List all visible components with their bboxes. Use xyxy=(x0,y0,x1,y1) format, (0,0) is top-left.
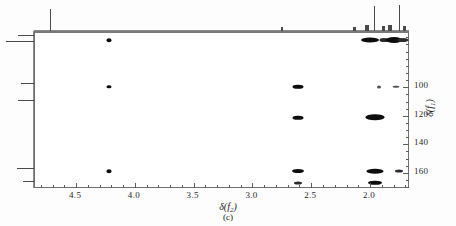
x-axis-minor-tick xyxy=(41,185,42,188)
x-axis-minor-tick xyxy=(88,185,89,188)
f2-projection-peak xyxy=(374,6,375,31)
y-axis-tick-label: 160 xyxy=(414,166,428,176)
y-axis-paren-open: ( xyxy=(424,109,435,112)
x-axis-tick-label: 4.0 xyxy=(128,190,140,200)
cross-peak xyxy=(292,169,304,173)
x-axis-minor-tick xyxy=(288,185,289,188)
cross-peak xyxy=(107,38,112,42)
x-axis-major-tick xyxy=(135,183,136,188)
x-axis-tick-label: 3.5 xyxy=(187,190,199,200)
cross-peak xyxy=(293,116,304,121)
y-axis-minor-tick xyxy=(406,187,409,188)
x-axis-tick-label: 2.0 xyxy=(363,190,375,200)
y-axis-f-symbol: f xyxy=(424,106,435,109)
x-axis-minor-tick xyxy=(53,185,54,188)
x-axis-minor-tick xyxy=(276,185,277,188)
cross-peak xyxy=(365,114,384,120)
y-axis-minor-tick xyxy=(406,130,409,131)
nmr-2d-spectrum-figure: 4.54.03.53.02.52.0 100120140160 δ(f2) δ(… xyxy=(0,0,456,226)
x-axis-minor-tick xyxy=(111,185,112,188)
x-axis-minor-tick xyxy=(323,185,324,188)
y-axis-minor-tick xyxy=(406,52,409,53)
y-axis-minor-tick xyxy=(406,109,409,110)
x-axis-tick-label: 2.5 xyxy=(304,190,316,200)
x-axis-minor-tick xyxy=(170,185,171,188)
y-axis-minor-tick xyxy=(406,66,409,67)
x-axis-major-tick xyxy=(252,183,253,188)
cross-peak xyxy=(293,84,304,89)
x-axis-major-tick xyxy=(370,183,371,188)
y-axis-minor-tick xyxy=(406,151,409,152)
spectrum-plot-area xyxy=(34,31,409,188)
x-axis-minor-tick xyxy=(100,185,101,188)
y-axis-minor-tick xyxy=(406,180,409,181)
x-axis-minor-tick xyxy=(64,185,65,188)
x-axis-minor-tick xyxy=(147,185,148,188)
f2-projection-peak xyxy=(399,5,400,31)
y-axis-tick-label: 100 xyxy=(414,80,428,90)
y-axis-minor-tick xyxy=(406,73,409,74)
y-axis-major-tick xyxy=(403,173,409,174)
y-axis-subscript: 1 xyxy=(429,103,437,107)
y-axis-tick-label: 140 xyxy=(414,137,428,147)
x-axis-major-tick xyxy=(311,183,312,188)
cross-peak xyxy=(366,169,383,174)
x-axis-minor-tick xyxy=(347,185,348,188)
y-axis-minor-tick xyxy=(406,137,409,138)
x-axis-major-tick xyxy=(194,183,195,188)
f1-projection-peak xyxy=(18,35,34,36)
f2-projection-trace xyxy=(34,0,409,31)
cross-peak xyxy=(377,85,381,88)
f1-projection-peak xyxy=(21,83,34,84)
y-axis-major-tick xyxy=(403,116,409,117)
f1-projection-peak xyxy=(18,100,34,101)
y-axis-minor-tick xyxy=(406,44,409,45)
cross-peak xyxy=(107,85,112,89)
x-axis-minor-tick xyxy=(158,185,159,188)
cross-peak xyxy=(361,38,379,43)
x-axis-minor-tick xyxy=(229,185,230,188)
cross-peak xyxy=(392,85,399,88)
cross-peak xyxy=(294,181,302,184)
x-axis-minor-tick xyxy=(205,185,206,188)
y-axis-delta-symbol: δ xyxy=(424,112,435,117)
x-axis-minor-tick xyxy=(241,185,242,188)
panel-label: (c) xyxy=(223,212,233,222)
f1-projection-trace xyxy=(0,31,34,188)
x-axis-tick-label: 4.5 xyxy=(69,190,81,200)
f2-projection-peak xyxy=(50,9,51,31)
x-axis-minor-tick xyxy=(123,185,124,188)
x-axis-minor-tick xyxy=(358,185,359,188)
x-axis-minor-tick xyxy=(382,185,383,188)
y-axis-title: δ(f1) xyxy=(424,99,437,117)
x-axis-minor-tick xyxy=(217,185,218,188)
x-axis-paren-close: ) xyxy=(233,201,236,212)
f1-projection-peak xyxy=(17,168,34,169)
x-axis-minor-tick xyxy=(264,185,265,188)
y-axis-minor-tick xyxy=(406,123,409,124)
f1-projection-peak xyxy=(6,41,34,42)
x-axis-minor-tick xyxy=(335,185,336,188)
y-axis-minor-tick xyxy=(406,159,409,160)
y-axis-minor-tick xyxy=(406,166,409,167)
y-axis-minor-tick xyxy=(406,59,409,60)
y-axis-major-tick xyxy=(403,87,409,88)
cross-peak xyxy=(397,38,408,42)
y-axis-minor-tick xyxy=(406,37,409,38)
x-axis-minor-tick xyxy=(299,185,300,188)
f1-projection-peak xyxy=(23,181,34,182)
x-axis-minor-tick xyxy=(182,185,183,188)
x-axis-tick-label: 3.0 xyxy=(245,190,257,200)
y-axis-minor-tick xyxy=(406,94,409,95)
cross-peak xyxy=(107,170,112,174)
y-axis-paren-close: ) xyxy=(424,99,435,102)
x-axis-major-tick xyxy=(76,183,77,188)
y-axis-minor-tick xyxy=(406,80,409,81)
y-axis-minor-tick xyxy=(406,102,409,103)
x-axis-minor-tick xyxy=(394,185,395,188)
y-axis-major-tick xyxy=(403,144,409,145)
